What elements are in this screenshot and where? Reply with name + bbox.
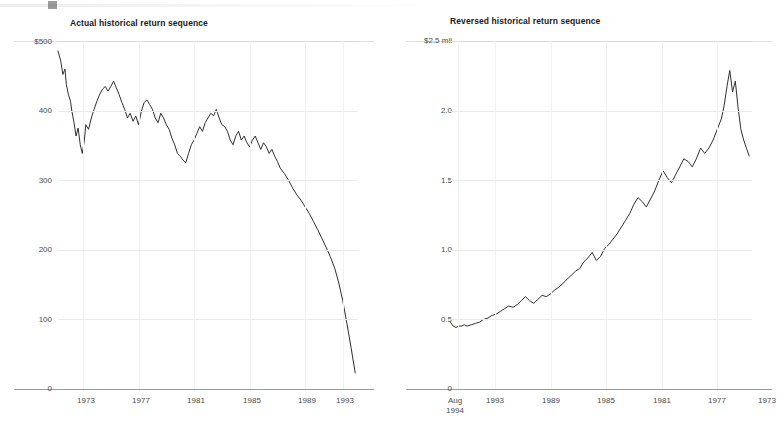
right-plot-area [449,41,752,389]
right-ytick-0p5: 0.5 [396,315,452,324]
right-xtick-1981: 1981 [642,396,682,405]
right-xtick-1985: 1985 [586,396,626,405]
right-xtick-1994: 1994 [440,406,470,415]
right-ytick-0: 0 [396,384,452,393]
left-gridline-400 [58,111,358,112]
left-vgrid-1973 [83,41,84,389]
left-xtick-1981: 1981 [176,396,216,405]
left-xtick-1989: 1989 [287,396,327,405]
left-vgrid-1985 [250,41,251,389]
left-ytick-400: 400 [8,106,52,115]
left-vgrid-1977 [139,41,140,389]
left-gridline-100 [58,319,358,320]
left-chart-title: Actual historical return sequence [70,18,208,28]
right-ytick-1p5: 1.5 [396,176,452,185]
right-xtick-aug: Aug [440,396,470,405]
right-vgrid-aug1994 [458,41,459,389]
left-plot-area [58,41,358,389]
left-series-chart [58,41,358,389]
right-xtick-1973: 1973 [747,396,779,405]
left-vgrid-1981 [194,41,195,389]
right-vgrid-1989 [551,41,552,389]
left-xtick-1985: 1985 [232,396,272,405]
right-xtick-1977: 1977 [697,396,737,405]
left-gridline-300 [58,180,358,181]
right-vgrid-1981 [662,41,663,389]
right-ytick-2p5: $2.5 mil [396,36,452,45]
right-ytick-2p0: 2.0 [396,106,452,115]
left-xtick-1973: 1973 [66,396,106,405]
left-ytick-300: 300 [8,176,52,185]
left-ytick-100: 100 [8,315,52,324]
right-vgrid-1977 [717,41,718,389]
right-vgrid-1993 [495,41,496,389]
left-xtick-1977: 1977 [121,396,161,405]
left-vgrid-1989 [305,41,306,389]
left-chart-panel: Actual historical return sequence $500 4… [0,0,392,430]
left-ytick-0: 0 [8,384,52,393]
left-gridline-500 [58,41,358,42]
left-ytick-200: 200 [8,245,52,254]
right-chart-panel: Reversed historical return sequence $2.5… [392,0,779,430]
right-chart-title: Reversed historical return sequence [450,16,600,26]
left-series-line [58,51,355,373]
right-xtick-1993: 1993 [475,396,515,405]
left-ytick-500: $500 [8,37,52,46]
right-ytick-1p0: 1.0 [396,245,452,254]
left-vgrid-1993 [343,41,344,389]
left-gridline-200 [58,250,358,251]
right-vgrid-1985 [606,41,607,389]
right-xtick-1989: 1989 [531,396,571,405]
figure-container: Actual historical return sequence $500 4… [0,0,779,430]
left-xtick-1993: 1993 [325,396,365,405]
